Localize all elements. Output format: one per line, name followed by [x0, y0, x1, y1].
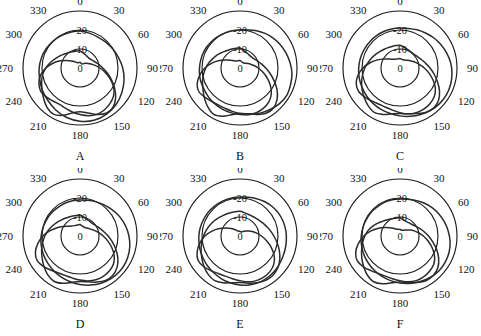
r-label-neg20: -20	[233, 193, 247, 204]
theta-label-120: 120	[458, 95, 475, 107]
panel-label-d: D	[76, 317, 85, 331]
theta-label-210: 210	[30, 288, 47, 300]
r-label-neg10: -10	[393, 212, 407, 223]
r-tick-labels: 0-10-20	[393, 25, 407, 74]
theta-label-150: 150	[434, 288, 451, 300]
theta-label-240: 240	[6, 95, 23, 107]
polar-subplot-a: 03060901201501802102402703003300-10-20A	[0, 0, 160, 168]
r-label-neg10: -10	[393, 44, 407, 55]
theta-label-180: 180	[72, 297, 89, 309]
theta-label-210: 210	[30, 120, 47, 132]
theta-label-330: 330	[30, 4, 47, 16]
theta-label-240: 240	[326, 95, 343, 107]
theta-label-120: 120	[458, 263, 475, 275]
theta-label-0: 0	[397, 0, 403, 7]
theta-label-60: 60	[458, 196, 470, 208]
theta-label-60: 60	[298, 28, 310, 40]
theta-label-240: 240	[326, 263, 343, 275]
theta-label-90: 90	[467, 62, 479, 74]
panel-label-c: C	[396, 149, 404, 163]
r-tick-labels: 0-10-20	[233, 193, 247, 242]
panel-label-b: B	[236, 149, 244, 163]
r-tick-labels: 0-10-20	[73, 193, 87, 242]
panel-label-a: A	[76, 149, 85, 163]
theta-label-270: 270	[0, 230, 14, 242]
panel-label-f: F	[397, 317, 404, 331]
r-tick-labels: 0-10-20	[393, 193, 407, 242]
theta-label-210: 210	[190, 288, 207, 300]
r-label-neg20: -20	[233, 25, 247, 36]
theta-label-120: 120	[298, 263, 315, 275]
theta-label-270: 270	[160, 62, 174, 74]
theta-label-330: 330	[350, 4, 367, 16]
theta-label-90: 90	[307, 62, 319, 74]
theta-label-180: 180	[232, 129, 249, 141]
r-label-0: 0	[397, 63, 402, 74]
theta-label-270: 270	[320, 62, 334, 74]
theta-label-180: 180	[392, 129, 409, 141]
theta-label-60: 60	[298, 196, 310, 208]
theta-label-300: 300	[326, 196, 343, 208]
theta-label-0: 0	[77, 168, 83, 175]
theta-label-210: 210	[190, 120, 207, 132]
theta-label-270: 270	[320, 230, 334, 242]
polar-plot-figure: 03060901201501802102402703003300-10-20A0…	[0, 0, 481, 336]
theta-label-60: 60	[138, 196, 150, 208]
theta-label-300: 300	[6, 196, 23, 208]
theta-label-240: 240	[166, 95, 183, 107]
polar-subplot-d: 03060901201501802102402703003300-10-20D	[0, 168, 160, 336]
r-label-neg10: -10	[233, 44, 247, 55]
r-label-neg10: -10	[73, 212, 87, 223]
r-label-neg20: -20	[73, 193, 87, 204]
theta-label-150: 150	[434, 120, 451, 132]
theta-label-120: 120	[138, 95, 155, 107]
theta-label-150: 150	[274, 288, 291, 300]
theta-label-240: 240	[166, 263, 183, 275]
theta-label-0: 0	[77, 0, 83, 7]
theta-label-30: 30	[434, 4, 446, 16]
theta-label-150: 150	[114, 288, 131, 300]
theta-label-300: 300	[166, 196, 183, 208]
theta-label-90: 90	[307, 230, 319, 242]
polar-subplot-e: 03060901201501802102402703003300-10-20E	[160, 168, 320, 336]
r-tick-labels: 0-10-20	[73, 25, 87, 74]
theta-label-30: 30	[114, 172, 126, 184]
r-label-neg10: -10	[233, 212, 247, 223]
r-label-neg20: -20	[393, 25, 407, 36]
theta-label-30: 30	[114, 4, 126, 16]
theta-label-270: 270	[160, 230, 174, 242]
theta-label-150: 150	[114, 120, 131, 132]
theta-label-0: 0	[237, 0, 243, 7]
r-label-neg10: -10	[73, 44, 87, 55]
r-tick-labels: 0-10-20	[233, 25, 247, 74]
theta-label-330: 330	[190, 172, 207, 184]
theta-label-60: 60	[138, 28, 150, 40]
theta-label-90: 90	[467, 230, 479, 242]
theta-label-210: 210	[350, 120, 367, 132]
theta-label-90: 90	[147, 62, 159, 74]
theta-label-330: 330	[190, 4, 207, 16]
r-label-0: 0	[397, 231, 402, 242]
theta-label-30: 30	[274, 4, 286, 16]
theta-label-0: 0	[237, 168, 243, 175]
theta-label-30: 30	[274, 172, 286, 184]
theta-label-210: 210	[350, 288, 367, 300]
r-label-neg20: -20	[393, 193, 407, 204]
polar-subplot-b: 03060901201501802102402703003300-10-20B	[160, 0, 320, 168]
theta-label-330: 330	[350, 172, 367, 184]
r-label-0: 0	[237, 231, 242, 242]
theta-label-180: 180	[72, 129, 89, 141]
theta-label-330: 330	[30, 172, 47, 184]
theta-label-30: 30	[434, 172, 446, 184]
r-label-0: 0	[237, 63, 242, 74]
r-label-neg20: -20	[73, 25, 87, 36]
polar-subplot-c: 03060901201501802102402703003300-10-20C	[320, 0, 480, 168]
theta-label-120: 120	[138, 263, 155, 275]
theta-label-300: 300	[326, 28, 343, 40]
theta-label-180: 180	[232, 297, 249, 309]
theta-label-60: 60	[458, 28, 470, 40]
theta-label-270: 270	[0, 62, 14, 74]
theta-label-150: 150	[274, 120, 291, 132]
theta-label-300: 300	[166, 28, 183, 40]
panel-label-e: E	[236, 317, 243, 331]
